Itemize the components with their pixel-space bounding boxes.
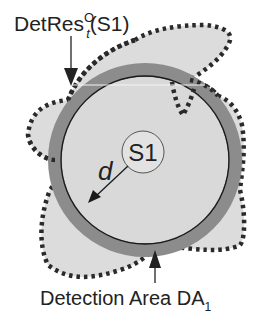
detection-diagram: S1 d DetResOt(S1) Detection Area DA1 — [0, 0, 261, 324]
distance-label: d — [98, 156, 114, 186]
detres-label: DetResOt(S1) — [14, 10, 129, 41]
detection-area-label: Detection Area DA1 — [40, 287, 212, 314]
sensor-s1-label: S1 — [128, 139, 157, 166]
